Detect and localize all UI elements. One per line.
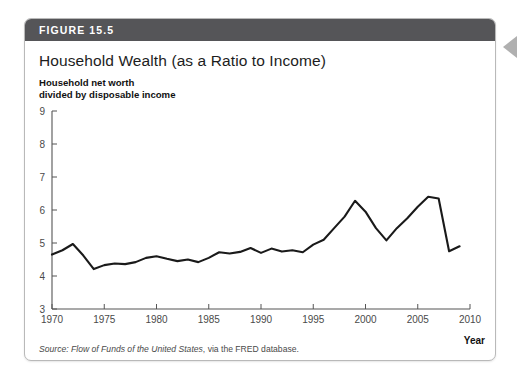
- y-axis-tick-label: 6: [39, 205, 45, 216]
- y-axis-tick-label: 4: [39, 271, 45, 282]
- left-triangle-icon: [503, 36, 517, 58]
- x-axis-tick-label: 1970: [41, 314, 64, 325]
- x-axis-tick-label: 1985: [198, 314, 221, 325]
- x-axis-title: Year: [464, 335, 485, 346]
- x-axis-tick-label: 1975: [93, 314, 116, 325]
- y-axis-tick-label: 5: [39, 238, 45, 249]
- y-axis-tick-label: 3: [39, 304, 45, 315]
- y-axis-tick-label: 7: [39, 172, 45, 183]
- source-rest: , via the FRED database.: [203, 344, 299, 354]
- x-axis-tick-label: 2005: [407, 314, 430, 325]
- chart-plot-area: 3456789 19701975198019851990199520002005…: [25, 19, 497, 362]
- x-axis-tick-labels: 197019751980198519901995200020052010: [41, 314, 482, 325]
- x-axis-tick-label: 2000: [354, 314, 377, 325]
- y-axis-tick-label: 9: [39, 106, 45, 117]
- x-axis-ticks: [52, 304, 470, 309]
- x-axis-tick-label: 1980: [145, 314, 168, 325]
- data-series-line: [52, 197, 460, 269]
- y-axis-tick-labels: 3456789: [39, 106, 45, 315]
- source-prefix: Source:: [39, 344, 69, 354]
- source-note: Source: Flow of Funds of the United Stat…: [39, 344, 299, 354]
- y-axis-tick-label: 8: [39, 139, 45, 150]
- source-title: Flow of Funds of the United States: [71, 344, 203, 354]
- x-axis-tick-label: 2010: [459, 314, 482, 325]
- y-axis-ticks: [52, 111, 57, 309]
- line-chart-svg: 3456789 19701975198019851990199520002005…: [25, 19, 497, 362]
- figure-card: FIGURE 15.5 Household Wealth (as a Ratio…: [24, 18, 496, 361]
- x-axis-tick-label: 1990: [250, 314, 273, 325]
- x-axis-tick-label: 1995: [302, 314, 325, 325]
